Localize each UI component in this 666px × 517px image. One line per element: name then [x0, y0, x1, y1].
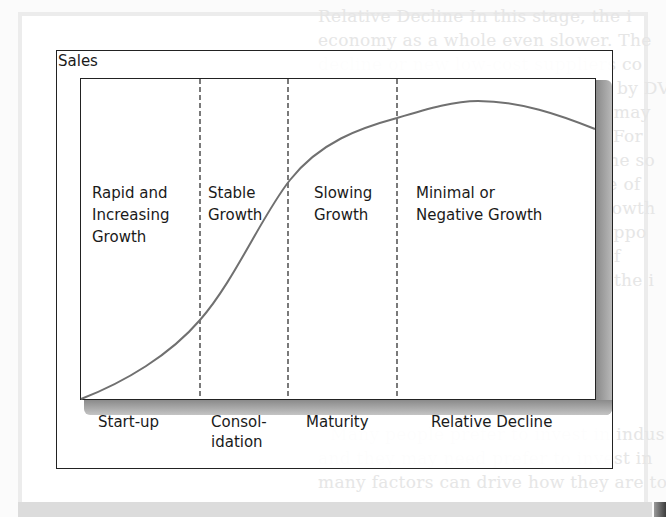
page-corner-shadow [654, 502, 666, 517]
phase-label-stable-growth: Stable Growth [208, 182, 262, 226]
phase-label-minimal-growth: Minimal or Negative Growth [416, 182, 542, 226]
phase-label-line: Rapid and [92, 182, 169, 204]
page-bottom-band [18, 502, 652, 517]
y-axis-label: Sales [58, 52, 98, 70]
stage-label-relative-decline: Relative Decline [431, 412, 552, 432]
phase-label-line: Minimal or [416, 182, 542, 204]
phase-label-slowing-growth: Slowing Growth [314, 182, 372, 226]
phase-label-line: Negative Growth [416, 204, 542, 226]
phase-label-line: Growth [92, 226, 169, 248]
stage-label-startup: Start-up [98, 412, 159, 432]
phase-label-line: Stable [208, 182, 262, 204]
phase-label-rapid-growth: Rapid and Increasing Growth [92, 182, 169, 248]
phase-label-line: Growth [314, 204, 372, 226]
background-text-line: economy as a whole even slower. The [318, 30, 652, 50]
phase-label-line: Slowing [314, 182, 372, 204]
stage-label-consolidation: Consol- idation [211, 412, 267, 452]
stage-label-line: Start-up [98, 412, 159, 432]
phase-label-line: Growth [208, 204, 262, 226]
stage-label-line: Relative Decline [431, 412, 552, 432]
stage-label-line: idation [211, 432, 267, 452]
stage-label-line: Maturity [306, 412, 369, 432]
phase-label-line: Increasing [92, 204, 169, 226]
stage-label-line: Consol- [211, 412, 267, 432]
plot-shadow-right [596, 80, 612, 415]
textbook-page: Relative Decline In this stage, the i ec… [0, 0, 666, 517]
stage-label-maturity: Maturity [306, 412, 369, 432]
background-text-line: many factors can drive how they are to [318, 472, 666, 492]
background-text-line: Relative Decline In this stage, the i [318, 6, 632, 26]
